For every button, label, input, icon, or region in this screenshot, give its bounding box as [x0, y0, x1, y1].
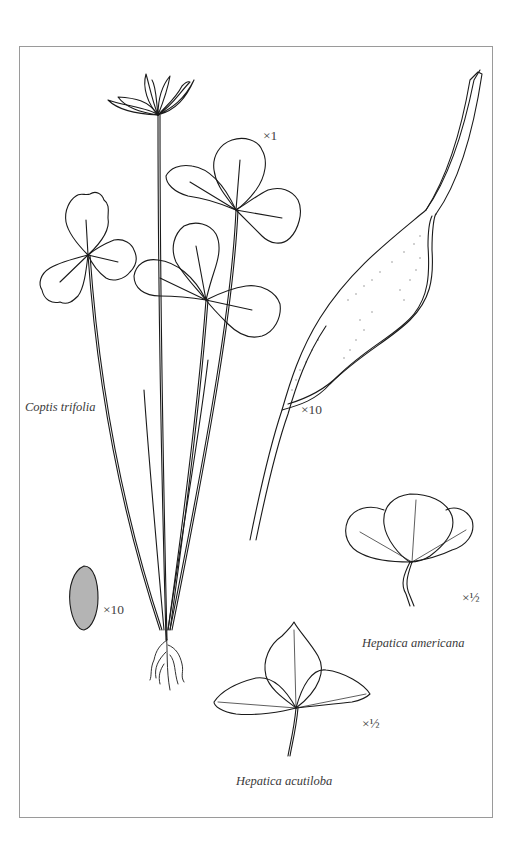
- coptis-roots: [150, 630, 184, 690]
- capsule-drawing: [250, 70, 482, 540]
- hepatica-acutiloba-name-label: Hepatica acutiloba: [236, 774, 332, 789]
- capsule-scale-label: ×10: [301, 402, 322, 418]
- coptis-fruit-cluster: [108, 74, 194, 640]
- hepatica-americana-name-label: Hepatica americana: [362, 636, 464, 651]
- hepatica-acutiloba-scale-label: ×½: [362, 716, 380, 732]
- hepatica-americana-drawing: [346, 494, 473, 606]
- seed-drawing: [70, 566, 98, 630]
- coptis-leaf-upper: [166, 138, 300, 630]
- hepatica-acutiloba-drawing: [214, 622, 370, 756]
- coptis-scale-label: ×1: [263, 128, 277, 144]
- capsule-stipple: [291, 235, 420, 390]
- coptis-leaf-lower: [134, 223, 280, 630]
- coptis-name-label: Coptis trifolia: [25, 400, 96, 415]
- hepatica-americana-scale-label: ×½: [462, 590, 480, 606]
- seed-scale-label: ×10: [103, 602, 124, 618]
